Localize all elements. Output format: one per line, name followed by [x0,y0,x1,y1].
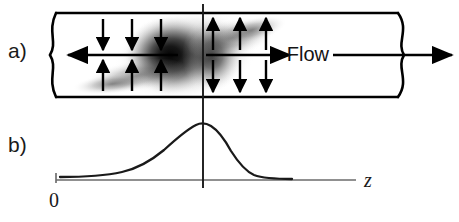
z-axis-label: z [363,169,372,191]
concentration-curve [60,124,292,179]
pipe-left-break-edge [50,13,56,97]
panel-b-label: b) [8,133,27,156]
figure-container: a) [0,0,459,222]
flow-label: Flow [287,43,330,65]
panel-a-label: a) [8,39,27,62]
panel-b: b) 0 z [8,124,372,211]
origin-label: 0 [49,189,59,211]
panel-a: a) [8,0,452,109]
figure-svg: a) [0,0,459,222]
